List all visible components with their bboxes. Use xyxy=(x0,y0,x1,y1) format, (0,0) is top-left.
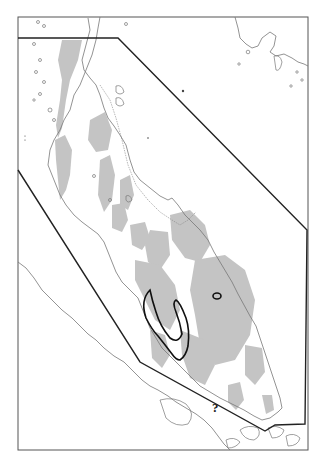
riau-islands xyxy=(160,399,300,448)
northeast-islands xyxy=(238,50,303,87)
uncertain-range-marker: ? xyxy=(212,400,219,415)
highland-shading xyxy=(55,40,274,414)
political-border xyxy=(100,85,196,225)
distribution-map: ? xyxy=(0,0,323,474)
northeast-coastline xyxy=(235,17,308,66)
